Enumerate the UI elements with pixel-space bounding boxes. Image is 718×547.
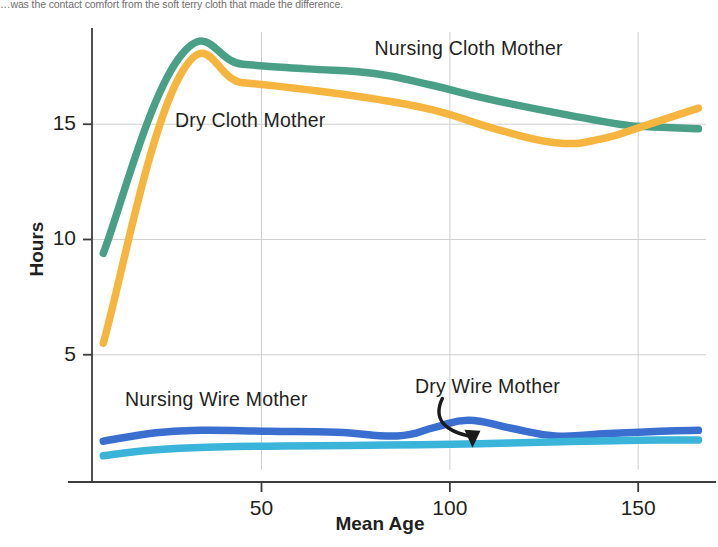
series-label-nursing-wire-mother: Nursing Wire Mother [125, 388, 308, 411]
series-line [103, 440, 698, 456]
y-tick-label: 5 [30, 342, 76, 366]
y-tick-label: 15 [30, 111, 76, 135]
x-tick-label: 100 [410, 496, 490, 520]
series-line [103, 41, 698, 253]
series-label-nursing-cloth-mother: Nursing Cloth Mother [375, 37, 563, 60]
line-chart-canvas [0, 10, 718, 547]
chart-axes [68, 28, 716, 482]
series-label-dry-wire-mother: Dry Wire Mother [415, 375, 560, 398]
y-tick-label: 10 [30, 226, 76, 250]
series-label-dry-cloth-mother: Dry Cloth Mother [175, 109, 326, 132]
series-line [103, 53, 698, 343]
x-tick-label: 50 [222, 496, 302, 520]
x-tick-label: 150 [598, 496, 678, 520]
chart-figure: Hours Mean Age 5101550100150 Nursing Clo… [0, 10, 718, 547]
